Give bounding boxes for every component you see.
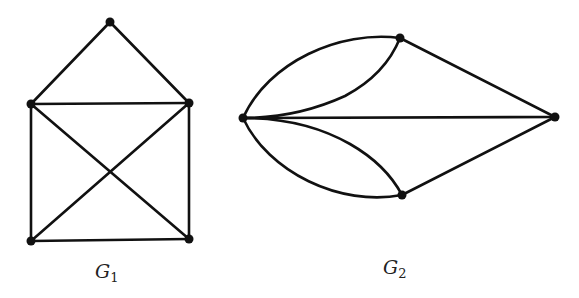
- g2-vertex-left: [239, 114, 248, 123]
- g2-edge-top-right: [400, 38, 555, 117]
- graph-g1: [27, 18, 194, 246]
- g2-edge-bottom-right: [402, 117, 555, 195]
- graph-label-g1-main: G: [95, 260, 110, 282]
- g2-vertex-top: [396, 34, 405, 43]
- g1-edge-bottomleft-bottomright: [31, 239, 189, 241]
- g1-edge-midleft-midright: [31, 103, 189, 104]
- g1-vertex-mid-left: [27, 100, 36, 109]
- g1-edge-top-midright: [110, 22, 189, 103]
- g2-edge-left-right: [243, 117, 555, 118]
- graph-label-g1-sub: 1: [110, 270, 118, 285]
- graph-label-g2-main: G: [383, 256, 398, 278]
- g1-vertex-bottom-right: [185, 235, 194, 244]
- g2-edge-left-bottom-inner: [243, 118, 402, 195]
- g1-edge-top-midleft: [31, 22, 110, 104]
- graph-label-g2: G2: [383, 258, 406, 280]
- g1-vertex-top: [106, 18, 115, 27]
- g2-vertex-right: [551, 113, 560, 122]
- g1-vertex-mid-right: [185, 99, 194, 108]
- g2-edge-left-top-inner: [243, 38, 400, 118]
- figure-canvas: G1 G2: [0, 0, 579, 298]
- g1-vertex-bottom-left: [27, 237, 36, 246]
- graph-label-g2-sub: 2: [398, 266, 406, 281]
- g2-vertex-bottom: [398, 191, 407, 200]
- graphs-svg: [0, 0, 579, 298]
- graph-label-g1: G1: [95, 262, 118, 284]
- graph-g2: [239, 34, 560, 200]
